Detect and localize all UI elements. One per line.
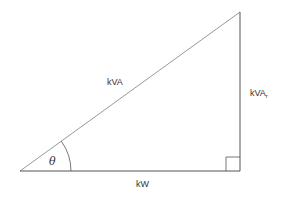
vertical-side-label-main: kVA <box>250 88 266 98</box>
right-angle-marker <box>226 157 240 171</box>
vertical-side-label-subscript: r <box>266 93 268 99</box>
angle-theta-label: θ <box>49 155 56 168</box>
hypotenuse-line <box>20 12 240 171</box>
angle-arc <box>61 141 71 171</box>
hypotenuse-label: kVA <box>107 77 123 87</box>
vertical-side-label: kVAr <box>250 88 268 99</box>
power-triangle-diagram: kVA kVAr kW θ <box>0 0 282 199</box>
base-label: kW <box>136 179 150 189</box>
